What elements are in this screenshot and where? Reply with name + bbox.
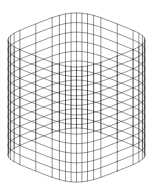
- wireframe-canvas: [0, 0, 152, 192]
- squircle-prism-wireframe: [0, 0, 152, 192]
- vertical-meridians: [8, 13, 145, 182]
